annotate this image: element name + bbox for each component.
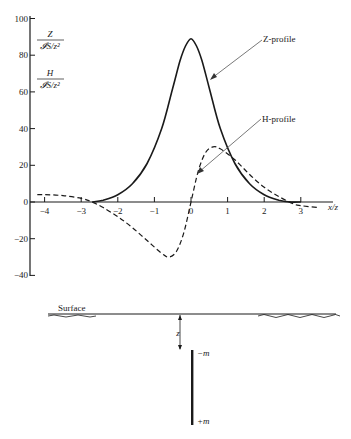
- arrow-down-icon: [178, 345, 182, 350]
- surface-label: Surface: [58, 303, 85, 313]
- y-tick-label: −40: [14, 270, 29, 280]
- arrowhead-icon: [210, 73, 217, 80]
- x-ticks: −4−3−2−10123: [40, 197, 304, 216]
- ground-hatch-right: [258, 315, 340, 318]
- y-tick-label: 40: [19, 124, 29, 134]
- y-label-z-denominator: 𝓘S/z²: [40, 41, 60, 51]
- x-tick-label: −1: [150, 206, 160, 216]
- arrow-up-icon: [178, 315, 182, 320]
- ground-hatch-left: [48, 315, 96, 317]
- h-profile-annotation: H-profile: [197, 114, 296, 174]
- x-tick-label: 2: [262, 206, 267, 216]
- y-tick-label: 80: [19, 50, 29, 60]
- depth-label: z: [175, 328, 180, 338]
- x-tick-label: −4: [40, 206, 50, 216]
- y-tick-label: 100: [15, 14, 29, 24]
- dipole-bar: [191, 350, 193, 425]
- z-profile-arrow: [212, 40, 262, 78]
- x-tick-label: 1: [225, 206, 230, 216]
- y-tick-label: 60: [19, 87, 29, 97]
- x-axis-label: x/z: [327, 202, 338, 212]
- h-profile-arrow: [199, 119, 261, 172]
- y-tick-label: 0: [24, 197, 29, 207]
- y-label-h-denominator: 𝓘S/z²: [40, 80, 60, 90]
- y-label-h-numerator: H: [46, 68, 54, 78]
- subsurface-diagram: Surface z −m +m: [48, 303, 340, 426]
- y-label-z-numerator: Z: [47, 29, 53, 39]
- top-pole-label: −m: [197, 348, 210, 358]
- x-tick-label: 3: [299, 206, 304, 216]
- y-label-h: H 𝓘S/z²: [37, 68, 64, 90]
- y-tick-label: −20: [14, 234, 29, 244]
- x-tick-label: −3: [76, 206, 86, 216]
- z-profile-label: Z-profile: [263, 34, 295, 44]
- y-label-z: Z 𝓘S/z²: [37, 29, 64, 51]
- h-profile-label: H-profile: [262, 114, 296, 124]
- y-tick-label: 20: [19, 160, 29, 170]
- figure-canvas: 100806040200−20−40 −4−3−2−10123 Z 𝓘S/z² …: [0, 0, 351, 439]
- y-ticks: 100806040200−20−40: [14, 14, 35, 281]
- z-profile-annotation: Z-profile: [210, 34, 295, 80]
- bottom-pole-label: +m: [197, 416, 210, 426]
